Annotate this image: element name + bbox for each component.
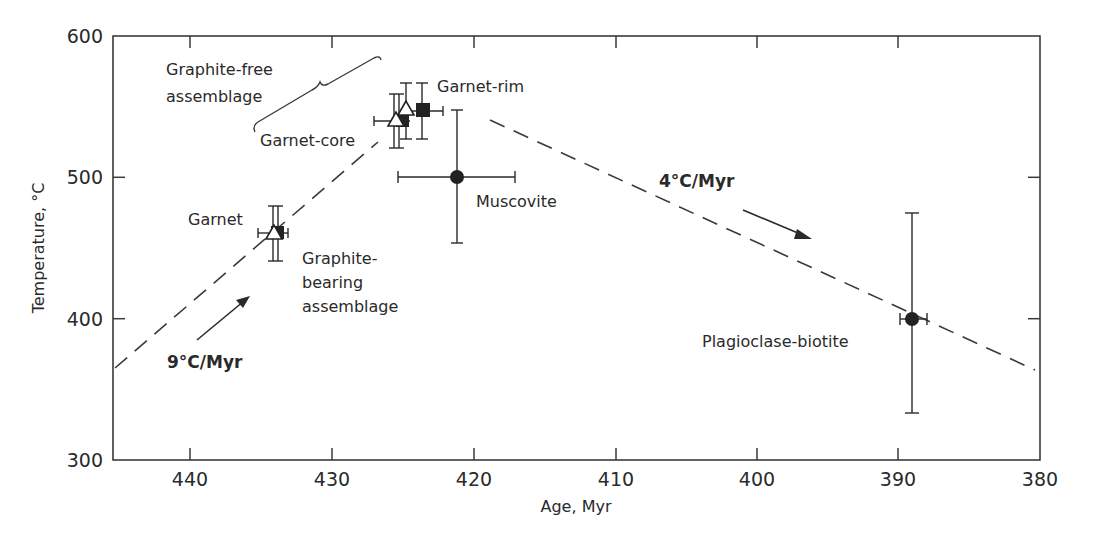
garnet-rim-triangle-marker <box>398 101 414 115</box>
y-tick-labels: 600 500 400 300 <box>67 25 103 471</box>
label-graphite-bearing-line3: assemblage <box>302 297 398 316</box>
label-garnet-rim: Garnet-rim <box>437 77 524 96</box>
cooling-arrow-icon <box>743 210 812 239</box>
garnet-rim-square-marker <box>416 103 430 117</box>
x-axis-title: Age, Myr <box>541 497 612 516</box>
x-tick-440: 440 <box>172 468 208 490</box>
label-graphite-bearing-line1: Graphite- <box>302 249 377 268</box>
annotations: Graphite-free assemblage Garnet-rim Garn… <box>166 60 849 372</box>
label-garnet: Garnet <box>188 210 243 229</box>
trend-lines <box>115 120 1035 370</box>
temperature-age-chart: 600 500 400 300 440 430 420 410 400 390 … <box>0 0 1096 535</box>
data-markers <box>266 101 919 326</box>
y-tick-400: 400 <box>67 308 103 330</box>
label-muscovite: Muscovite <box>476 192 557 211</box>
x-tick-400: 400 <box>739 468 775 490</box>
label-heating-rate: 9°C/Myr <box>167 352 243 372</box>
y-tick-300: 300 <box>67 449 103 471</box>
label-cooling-rate: 4°C/Myr <box>659 171 735 191</box>
error-bars <box>258 83 927 413</box>
label-garnet-core: Garnet-core <box>260 131 355 150</box>
x-tick-390: 390 <box>880 468 916 490</box>
graphite-free-brace-icon <box>254 57 381 132</box>
label-graphite-free-line1: Graphite-free <box>166 60 273 79</box>
label-plagioclase-biotite: Plagioclase-biotite <box>702 332 849 351</box>
x-tick-410: 410 <box>598 468 634 490</box>
y-axis-ticks <box>113 177 1040 318</box>
muscovite-marker <box>450 170 464 184</box>
label-graphite-bearing-line2: bearing <box>302 273 363 292</box>
y-tick-600: 600 <box>67 25 103 47</box>
x-tick-labels: 440 430 420 410 400 390 380 <box>172 468 1058 490</box>
y-axis-title: Temperature, °C <box>29 183 48 315</box>
x-tick-380: 380 <box>1022 468 1058 490</box>
y-tick-500: 500 <box>67 166 103 188</box>
x-tick-430: 430 <box>314 468 350 490</box>
label-graphite-free-line2: assemblage <box>166 87 262 106</box>
heating-arrow-icon <box>197 296 250 340</box>
x-tick-420: 420 <box>456 468 492 490</box>
plagioclase-biotite-marker <box>905 312 919 326</box>
